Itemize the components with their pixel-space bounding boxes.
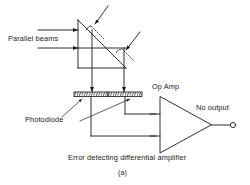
prism-outline [78, 20, 126, 68]
label-parallel-beams: Parallel beams [8, 35, 58, 42]
output-terminal-node [230, 122, 235, 127]
label-photodiode: Photodiode [25, 116, 63, 123]
photodiode-right [108, 92, 142, 97]
reflection-point-upper [86, 26, 91, 30]
photodiode-leader-left [62, 99, 82, 117]
label-no-output: No output [196, 104, 229, 111]
wire-photodiode-left-to-inverting [91, 97, 160, 136]
incident-ray-lower [126, 32, 140, 50]
figure-diagram: Parallel beams Photodiode Op Amp No outp… [0, 0, 250, 185]
reflection-point-lower [116, 49, 121, 53]
photodiode-left [74, 92, 108, 97]
normal-line-upper [91, 26, 104, 39]
wire-photodiode-right-to-noninverting [125, 97, 160, 114]
incident-ray-upper [95, 6, 108, 24]
figure-caption: (a) [118, 169, 127, 176]
label-error-detecting-amplifier: Error detecting differential amplifier [68, 154, 186, 161]
photodiode-leader-right [80, 99, 130, 121]
label-op-amp: Op Amp [152, 83, 179, 90]
